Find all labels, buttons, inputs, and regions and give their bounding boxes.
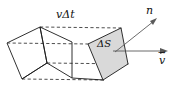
prism-upper-silhouette: [40, 27, 72, 42]
label-delta-s: ΔS: [97, 39, 111, 49]
swept-edge-top: [40, 27, 122, 28]
area-element-face: [88, 28, 128, 80]
swept-edge-upper-left: [7, 43, 89, 44]
n-hat-accent-icon: ˆ: [146, 0, 153, 8]
back-face-right-edge: [40, 27, 47, 63]
label-v-delta-t: vΔt: [56, 9, 75, 20]
label-n-hat: ˆn: [146, 5, 153, 16]
flux-diagram-figure: vΔt ΔS ˆn →v: [0, 0, 178, 90]
back-face-bottom-edge: [22, 63, 47, 79]
back-face-outline: [7, 27, 47, 79]
label-v-vector: →v: [159, 55, 165, 66]
prism-lower-silhouette: [47, 63, 104, 80]
v-vector-accent-icon: →: [158, 48, 165, 57]
normal-vector-arrowhead: [150, 18, 157, 25]
